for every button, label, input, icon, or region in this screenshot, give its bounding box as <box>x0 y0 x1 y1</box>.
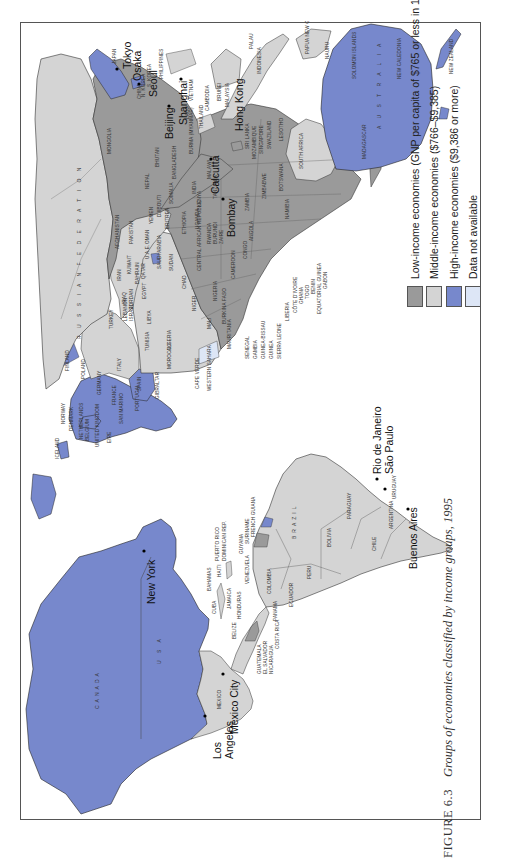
label-india: INDIA <box>192 180 197 194</box>
label-equatorial-guinea: EQUATORIAL GUINEA <box>317 262 322 314</box>
label-mongolia: MONGOLIA <box>107 127 112 154</box>
label-guinea-bissau: GUINEA-BISSAU <box>261 320 266 359</box>
label-turkey: TURKEY <box>109 309 114 329</box>
city-dot-tokyo <box>115 67 118 70</box>
label-cambodia: CAMBODIA <box>205 84 210 111</box>
label-sudan: SUDAN <box>169 254 174 271</box>
figure-number: FIGURE 6.3 <box>441 789 455 858</box>
label-kenya: KENYA <box>197 190 202 207</box>
label-costa-rica: COSTA RICA <box>275 619 280 649</box>
label-somalia: SOMALIA <box>169 181 174 204</box>
city-dot-new-york <box>142 549 145 552</box>
label-bangladesh: BANGLADESH <box>172 146 177 179</box>
city-seoul: Seoul <box>147 70 159 97</box>
label-singapore: SINGAPORE <box>259 125 264 154</box>
legend-swatch-low-income <box>407 286 423 307</box>
region-greenland-iceland <box>31 474 56 519</box>
label-russia: R U S S I A N F E D E R A T I O N <box>76 165 82 339</box>
label-netherlands: NETHERLANDS <box>79 403 84 439</box>
label-iceland: ICELAND <box>55 437 60 459</box>
label-burkina-faso: BURKINA FASO <box>222 288 227 324</box>
legend-swatch-data-not-available <box>465 286 481 307</box>
city-dot-rio <box>375 477 378 480</box>
label-djibouti: DJIBOUTI <box>157 194 162 217</box>
label-guinea: GUINEA <box>269 339 274 359</box>
label-sri-lanka: SRI LANKA <box>245 122 250 149</box>
label-papua-new-guinea: PAPUA NEW GUINEA <box>305 21 310 54</box>
city-mexico-city: Mexico City <box>228 679 240 734</box>
legend-label-high-income: High-income economies ($9,386 or more) <box>448 85 460 279</box>
label-angola: ANGOLA <box>249 220 254 241</box>
label-qatar: QATAR <box>141 262 146 279</box>
legend-label-middle-income: Middle-income economies ($766–$9,385) <box>428 86 440 279</box>
label-ecuador: ECUADOR <box>289 582 294 607</box>
legend-item-data-not-available: Data not available <box>464 27 484 307</box>
city-new-york: New York <box>145 559 157 604</box>
legend-swatch-high-income <box>446 286 462 307</box>
label-algeria: ALGERIA <box>167 329 172 351</box>
label-libya: LIBYA <box>147 310 152 324</box>
region-philippines <box>166 49 196 74</box>
label-oman: OMAN <box>145 229 150 244</box>
label-france: FRANCE <box>112 385 117 405</box>
label-puerto-rico: PUERTO RICO <box>215 527 220 561</box>
label-colombia: COLOMBIA <box>267 567 272 594</box>
label-finland: FINLAND <box>65 349 70 371</box>
label-dominican-rep: DOMINICAN REP. <box>222 521 227 562</box>
label-belgium: BELGIUM <box>85 419 90 441</box>
label-congo: CONGO <box>243 240 248 259</box>
label-zimbabwe: ZIMBABWE <box>262 173 267 199</box>
region-canada-usa <box>26 519 209 814</box>
city-bombay: Bombay <box>225 198 237 237</box>
figure-caption: FIGURE 6.3 Groups of economies classifie… <box>441 438 456 858</box>
region-south-america <box>253 454 453 607</box>
label-san-marino: SAN MARINO <box>119 393 124 424</box>
city-hong-kong: Hong Kong <box>233 78 245 131</box>
label-cameroon: CAMEROON <box>231 250 236 279</box>
label-italy: ITALY <box>117 358 122 371</box>
label-bahrain: BAHRAIN <box>135 262 140 284</box>
city-dot-sao-paulo <box>383 487 386 490</box>
label-tunisia: TUNISIA <box>145 331 150 351</box>
label-palau: PALAU <box>249 33 254 49</box>
label-iran: IRAN <box>117 269 122 281</box>
label-uganda: UGANDA <box>195 207 200 229</box>
label-eritrea: ERITREA <box>165 207 170 229</box>
label-mauritania: MAURITANIA <box>227 318 232 349</box>
label-haiti: HAITI <box>217 564 222 577</box>
label-bolivia: BOLIVIA <box>327 527 332 547</box>
label-suriname: SURINAME <box>245 518 250 544</box>
label-yemen: YEMEN <box>149 207 154 224</box>
label-western-sahara: WESTERN SAHARA <box>207 344 212 391</box>
label-niger: NIGER <box>192 295 197 311</box>
label-denmark: DENMARK <box>69 406 74 431</box>
label-iraq: IRAQ <box>122 292 127 304</box>
label-peru: PERU <box>307 565 312 579</box>
label-bhutan: BHUTAN <box>155 147 160 167</box>
label-brazil: BRAZIL <box>291 503 297 539</box>
label-guyana: GUYANA <box>239 533 244 554</box>
label-zaire: ZAIRE <box>219 229 224 244</box>
label-solomon-islands: SOLOMON ISLANDS <box>352 32 357 79</box>
label-nepal: NEPAL <box>145 173 150 189</box>
label-vietnam: VIETNAM <box>189 79 194 101</box>
label-kuwait: KUWAIT <box>127 255 132 274</box>
label-mali: MALI <box>207 317 212 329</box>
label-venezuela: VENEZUELA <box>245 554 250 584</box>
label-madagascar: MADAGASCAR <box>362 124 367 159</box>
label-french-guiana: FRENCH GUIANA <box>251 496 256 537</box>
label-lesotho: LESOTHO <box>279 117 284 141</box>
legend-item-low-income: Low-income economies (GNP per capita of … <box>405 27 425 307</box>
label-gibraltar: GIBRALTAR <box>155 371 160 399</box>
label-guatemala: GUATEMALA <box>257 643 262 674</box>
city-rio: Rio de Janeiro <box>371 406 383 474</box>
label-jordan: JORDAN <box>129 289 134 309</box>
city-dot-los-angeles <box>203 714 206 717</box>
label-belize: BELIZE <box>232 622 237 639</box>
legend-item-middle-income: Middle-income economies ($766–$9,385) <box>425 27 445 307</box>
label-ethiopia: ETHIOPIA <box>182 210 187 234</box>
label-botswana: BOTSWANA <box>279 163 284 191</box>
legend-label-data-not-available: Data not available <box>467 195 479 279</box>
label-canada: CANADA <box>94 670 100 709</box>
label-chile: CHILE <box>372 536 377 551</box>
